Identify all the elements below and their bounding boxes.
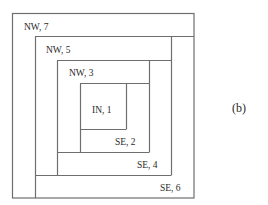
label-se2: SE, 2 — [115, 137, 136, 147]
spiral-rectangle-diagram: NW, 7 NW, 5 NW, 3 IN, 1 SE, 2 SE, 4 SE, … — [0, 0, 268, 205]
label-nw3: NW, 3 — [69, 68, 94, 78]
label-se4: SE, 4 — [137, 160, 158, 170]
label-se6: SE, 6 — [160, 183, 181, 193]
label-nw5: NW, 5 — [46, 45, 71, 55]
figure-caption: (b) — [232, 101, 246, 115]
label-in1: IN, 1 — [92, 105, 112, 115]
label-nw7: NW, 7 — [24, 22, 49, 32]
